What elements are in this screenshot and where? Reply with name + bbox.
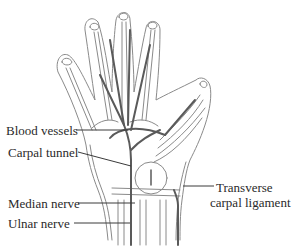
label-ulnar-nerve: Ulnar nerve (8, 216, 70, 231)
label-transverse-line2: carpal ligament (210, 195, 291, 210)
label-blood-vessels: Blood vessels (6, 123, 78, 138)
label-median-nerve: Median nerve (8, 196, 80, 211)
label-transverse-line1: Transverse (216, 180, 273, 195)
label-carpal-tunnel: Carpal tunnel (8, 145, 78, 160)
